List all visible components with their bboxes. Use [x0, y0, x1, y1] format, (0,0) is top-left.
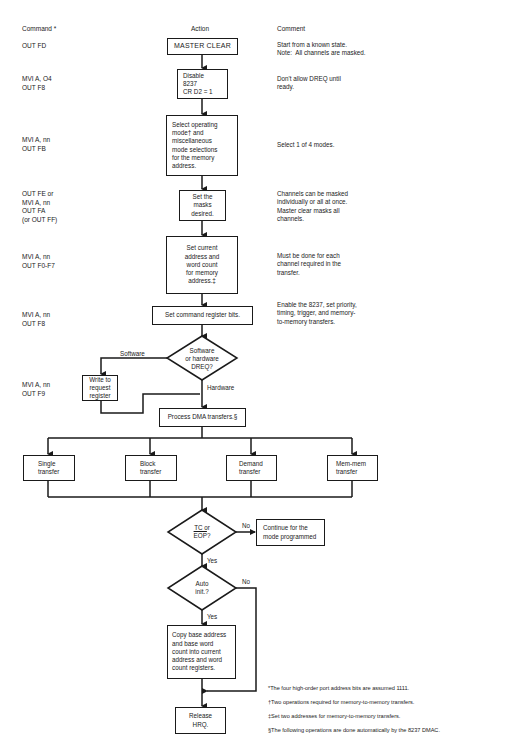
footnote-1: *The four high-order port address bits a… — [268, 685, 409, 691]
footnote-3: ‡Set two addresses for memory-to-memory … — [268, 713, 400, 719]
copy-base-box: Copy base address and base word count in… — [167, 625, 236, 679]
comment-register: Enable the 8237, set priority, timing, t… — [277, 301, 357, 326]
comment-address: Must be done for each channel required i… — [277, 252, 341, 277]
software-label: Software — [120, 350, 145, 357]
mem-mem-transfer-box: Mem-mem transfer — [327, 455, 378, 481]
command-disable: MVI A, O4 OUT F8 — [22, 75, 52, 92]
hardware-label: Hardware — [207, 384, 234, 391]
select-mode-box: Select operating mode† and miscellaneous… — [166, 115, 238, 176]
comment-mode: Select 1 of 4 modes. — [277, 141, 334, 149]
footnote-2: †Two operations required for memory-to-m… — [268, 699, 414, 705]
disable-box: Disable 8237 CR D2 = 1 — [177, 69, 228, 99]
tc-yes-label: Yes — [207, 557, 217, 564]
dreq-decision-text: Software or hardware DREQ? — [172, 347, 232, 371]
auto-init-decision-text: Auto init.? — [177, 580, 227, 596]
master-clear-box: MASTER CLEAR — [167, 38, 238, 55]
eop-text: EOP — [194, 532, 207, 539]
column-header-comment: Comment — [277, 25, 305, 32]
tc-no-label: No — [242, 522, 250, 529]
block-transfer-box: Block transfer — [125, 455, 177, 481]
release-hrq-box: Release HRQ. — [175, 707, 226, 734]
command-register: MVI A, nn OUT F8 — [22, 311, 50, 328]
auto-no-label: No — [242, 578, 250, 585]
command-masks: OUT FE or MVI A, nn OUT FA (or OUT FF) — [22, 190, 57, 224]
command-request: MVI A, nn OUT F9 — [22, 381, 50, 398]
single-transfer-box: Single transfer — [23, 455, 75, 481]
comment-disable: Don't allow DREQ until ready. — [277, 75, 341, 92]
tc-text: TC or — [194, 524, 210, 531]
write-request-box: Write to request register — [82, 375, 118, 401]
tc-eop-decision-text: TC orEOP? — [177, 524, 227, 540]
flowchart-connectors — [0, 0, 516, 749]
column-header-action: Action — [191, 25, 209, 32]
question-mark: ? — [207, 532, 211, 539]
comment-master-clear: Start from a known state. Note: All chan… — [277, 41, 366, 58]
command-out-fd: OUT FD — [22, 42, 46, 51]
continue-box: Continue for the mode programmed — [256, 519, 325, 546]
column-header-command: Command * — [22, 25, 56, 32]
set-address-box: Set current address and word count for m… — [166, 236, 238, 294]
process-dma-box: Process DMA transfers.§ — [159, 408, 246, 427]
comment-masks: Channels can be masked individually or a… — [277, 190, 348, 223]
demand-transfer-box: Demand transfer — [226, 455, 277, 481]
footnote-4: §The following operations are done autom… — [268, 727, 440, 733]
set-masks-box: Set the masks desired. — [179, 190, 226, 221]
command-mode: MVI A, nn OUT FB — [22, 136, 50, 153]
set-command-box: Set command register bits. — [152, 306, 253, 325]
auto-yes-label: Yes — [207, 613, 217, 620]
command-address: MVI A, nn OUT F0-F7 — [22, 253, 55, 270]
